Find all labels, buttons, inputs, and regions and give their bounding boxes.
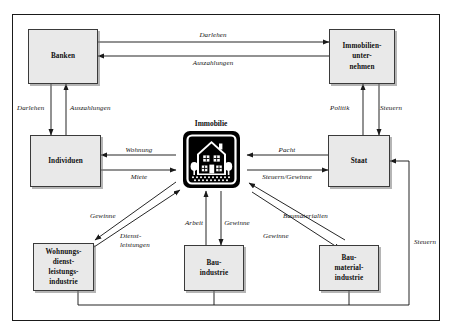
- edge-label-leistungen: leistungen: [120, 241, 150, 249]
- node-immobilien-line1: Immobilien-: [340, 41, 383, 51]
- node-bauindustrie[interactable]: Bau- industrie: [184, 245, 244, 291]
- edge-gewinne-right: [252, 192, 340, 249]
- node-individuen-label: Individuen: [46, 156, 85, 166]
- edge-label-darlehen-top: Darlehen: [199, 31, 226, 39]
- edge-label-steuern-topright: Steuern: [380, 104, 402, 112]
- node-immobilien-line3: nehmen: [348, 62, 377, 72]
- node-immobilienunternehmen[interactable]: Immobilien- unter- nehmen: [329, 29, 395, 84]
- node-baumaterial-line2: material-: [332, 263, 365, 273]
- house-icon: [183, 131, 240, 188]
- edge-label-gewinne-left: Gewinne: [90, 212, 116, 220]
- node-baumaterial-line3: industrie: [333, 273, 365, 283]
- edge-label-pacht: Pacht: [279, 146, 296, 154]
- edge-label-miete: Miete: [131, 173, 147, 181]
- edge-label-auszahlungen-left: Auszahlungen: [70, 104, 110, 112]
- node-banken[interactable]: Banken: [28, 29, 98, 84]
- node-baumaterial-line1: Bau-: [339, 253, 358, 263]
- edge-label-steuern-gewinne: Steuern/Gewinne: [262, 173, 312, 181]
- node-wohnungs-line2: dienst-: [51, 257, 76, 267]
- diagram-canvas: Banken Immobilien- unter- nehmen Individ…: [0, 0, 452, 335]
- node-bauindustrie-line1: Bau-: [204, 258, 223, 268]
- edge-label-arbeit: Arbeit: [185, 219, 203, 227]
- node-banken-label: Banken: [49, 51, 77, 61]
- node-individuen[interactable]: Individuen: [30, 135, 101, 187]
- house-icon-glyph: [183, 131, 240, 188]
- node-wohnungs-line4: industrie: [47, 277, 79, 287]
- node-bauindustrie-line2: industrie: [198, 268, 230, 278]
- edge-label-gewinne-right: Gewinne: [263, 232, 289, 240]
- node-baumaterialindustrie[interactable]: Bau- material- industrie: [319, 245, 379, 291]
- edge-label-gewinne-mid: Gewinne: [224, 219, 250, 227]
- edge-label-steuern-far-right: Steuern: [414, 238, 436, 246]
- node-immobilien-line2: unter-: [350, 51, 374, 61]
- edge-label-politik: Politik: [330, 104, 349, 112]
- edge-label-darlehen-left: Darlehen: [17, 104, 44, 112]
- edge-label-wohnung: Wohnung: [126, 146, 153, 154]
- node-wohnungs-line3: leistungs-: [46, 267, 80, 277]
- node-staat-label: Staat: [349, 156, 369, 166]
- edge-label-baumaterialien: Baumaterialien: [283, 212, 328, 220]
- node-staat[interactable]: Staat: [328, 135, 390, 187]
- center-label-immobilie: Immobilie: [195, 119, 227, 128]
- edge-label-auszahlungen-top: Auszahlungen: [193, 59, 233, 67]
- node-wohnungsdienstleistungsindustrie[interactable]: Wohnungs- dienst- leistungs- industrie: [33, 243, 94, 291]
- node-wohnungs-line1: Wohnungs-: [43, 247, 83, 257]
- edge-label-dienst: Dienst-: [120, 232, 141, 240]
